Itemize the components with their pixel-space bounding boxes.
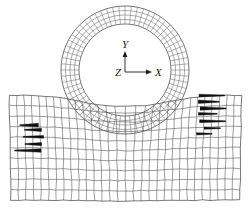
fem-mesh-figure: Y Z X [0, 0, 250, 218]
y-axis-label: Y [122, 38, 130, 50]
soil-mesh [9, 95, 242, 201]
x-axis-label: X [154, 66, 163, 78]
coordinate-triad [123, 51, 152, 74]
mesh-canvas: Y Z X [0, 0, 250, 218]
y-axis-arrowhead [123, 51, 128, 57]
x-axis-arrowhead [146, 70, 152, 75]
z-axis-label: Z [115, 66, 122, 78]
